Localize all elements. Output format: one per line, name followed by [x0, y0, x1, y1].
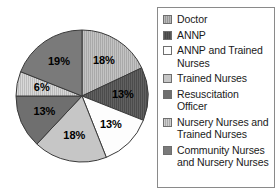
legend-item-label: Trained Nurses — [177, 72, 247, 85]
legend-item-label: Doctor — [177, 13, 207, 26]
legend-item[interactable]: Nursery Nurses and Trained Nurses — [163, 116, 270, 141]
pie-chart-svg: 18%13%13%18%13%6%19% — [0, 0, 156, 194]
legend-swatch-icon — [163, 31, 172, 40]
pie-slice-label: 18% — [63, 129, 85, 141]
legend-item[interactable]: Trained Nurses — [163, 72, 270, 85]
legend-item-label: Resuscitation Officer — [177, 88, 270, 113]
legend-swatch-icon — [163, 15, 172, 24]
legend-swatch-icon — [163, 90, 172, 99]
pie-chart-figure: 18%13%13%18%13%6%19% DoctorANNPANNP and … — [0, 0, 278, 194]
pie-chart-plot-area: 18%13%13%18%13%6%19% — [0, 0, 156, 194]
pie-slice-label: 6% — [34, 81, 50, 93]
chart-legend: DoctorANNPANNP and Trained NursesTrained… — [157, 7, 275, 188]
legend-item[interactable]: Community Nurses and Nursery Nurses — [163, 144, 270, 169]
legend-item-label: Community Nurses and Nursery Nurses — [177, 144, 270, 169]
legend-item[interactable]: Resuscitation Officer — [163, 88, 270, 113]
legend-swatch-icon — [163, 74, 172, 83]
legend-item[interactable]: ANNP and Trained Nurses — [163, 44, 270, 69]
legend-swatch-icon — [163, 146, 172, 155]
legend-item-label: Nursery Nurses and Trained Nurses — [177, 116, 270, 141]
legend-swatch-icon — [163, 118, 172, 127]
pie-slice-label: 18% — [93, 54, 115, 66]
pie-slice-label: 13% — [33, 105, 55, 117]
pie-slice-label: 19% — [48, 55, 70, 67]
legend-swatch-icon — [163, 46, 172, 55]
pie-slice-label: 13% — [100, 118, 122, 130]
legend-item[interactable]: Doctor — [163, 13, 270, 26]
pie-slice-label: 13% — [112, 88, 134, 100]
legend-item[interactable]: ANNP — [163, 29, 270, 42]
legend-item-label: ANNP — [177, 29, 206, 42]
legend-item-label: ANNP and Trained Nurses — [177, 44, 270, 69]
